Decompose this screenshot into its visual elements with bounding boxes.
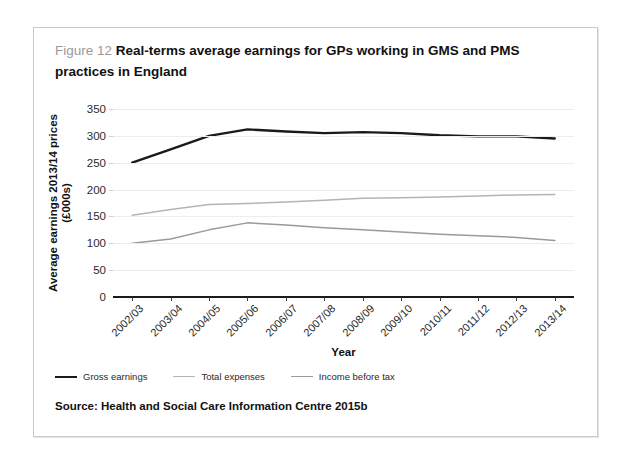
y-tick-label: 50 — [93, 264, 106, 276]
x-tick-mark — [478, 297, 479, 301]
chart-legend: Gross earningsTotal expensesIncome befor… — [55, 371, 395, 382]
plot-area: 0501001502002503003502002/032003/042004/… — [113, 109, 574, 297]
x-tick-mark — [324, 297, 325, 301]
legend-item-total-expenses[interactable]: Total expenses — [173, 371, 264, 382]
y-axis-title: Average earnings 2013/14 prices(£000s) — [47, 109, 73, 297]
y-tick-mark — [109, 243, 113, 244]
legend-swatch — [291, 376, 313, 377]
legend-swatch — [173, 376, 195, 377]
legend-swatch — [55, 376, 77, 378]
series-lines — [113, 109, 574, 297]
y-tick-mark — [109, 109, 113, 110]
x-tick-mark — [286, 297, 287, 301]
gridline — [113, 270, 574, 271]
x-tick-mark — [247, 297, 248, 301]
y-tick-mark — [109, 270, 113, 271]
x-tick-mark — [171, 297, 172, 301]
gridline — [113, 243, 574, 244]
y-tick-label: 150 — [87, 210, 106, 222]
source-note: Source: Health and Social Care Informati… — [55, 400, 368, 412]
gridline — [113, 136, 574, 137]
y-axis-title-text: Average earnings 2013/14 prices(£000s) — [47, 114, 73, 292]
figure-frame: Figure 12 Real-terms average earnings fo… — [33, 27, 598, 437]
series-line-gross-earnings — [132, 129, 555, 162]
y-tick-mark — [109, 216, 113, 217]
x-tick-mark — [132, 297, 133, 301]
gridline — [113, 109, 574, 110]
y-tick-label: 200 — [87, 184, 106, 196]
series-line-total-expenses — [132, 194, 555, 215]
gridline — [113, 216, 574, 217]
series-line-income-before-tax — [132, 223, 555, 243]
x-tick-mark — [440, 297, 441, 301]
legend-label: Income before tax — [319, 371, 395, 382]
x-tick-mark — [555, 297, 556, 301]
gridline — [113, 163, 574, 164]
x-tick-mark — [363, 297, 364, 301]
x-tick-mark — [516, 297, 517, 301]
x-tick-mark — [209, 297, 210, 301]
y-tick-label: 100 — [87, 237, 106, 249]
y-tick-mark — [109, 136, 113, 137]
legend-label: Gross earnings — [83, 371, 147, 382]
y-tick-label: 0 — [100, 291, 106, 303]
x-axis-title: Year — [113, 346, 574, 358]
legend-item-income-before-tax[interactable]: Income before tax — [291, 371, 395, 382]
y-tick-label: 350 — [87, 103, 106, 115]
x-tick-mark — [401, 297, 402, 301]
y-tick-label: 250 — [87, 157, 106, 169]
y-tick-mark — [109, 163, 113, 164]
gridline — [113, 190, 574, 191]
y-tick-label: 300 — [87, 130, 106, 142]
legend-label: Total expenses — [201, 371, 264, 382]
legend-item-gross-earnings[interactable]: Gross earnings — [55, 371, 147, 382]
y-tick-mark — [109, 190, 113, 191]
